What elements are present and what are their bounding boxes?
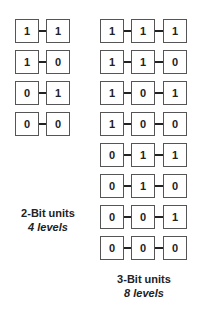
bit-box: 1 [100,81,124,105]
connector [155,92,163,94]
bit-box: 1 [163,81,187,105]
bit-box: 1 [46,19,70,43]
connector [124,185,131,187]
bit-box: 1 [46,81,70,105]
bit-box: 1 [15,19,39,43]
connector [155,123,163,125]
connector [155,154,163,156]
connector [155,185,163,187]
two-bit-caption: 2-Bit units 4 levels [8,206,88,234]
bit-box: 0 [163,112,187,136]
bit-box: 0 [100,205,124,229]
three-bit-caption: 3-Bit units 8 levels [100,272,188,300]
bit-box: 0 [15,81,39,105]
connector [155,216,163,218]
connector [155,30,163,32]
bit-box: 0 [131,81,155,105]
two-bit-levels: 4 levels [28,221,68,233]
bit-box: 0 [100,174,124,198]
connector [124,154,131,156]
connector [124,30,131,32]
connector [39,123,46,125]
bit-box: 1 [131,50,155,74]
three-bit-levels: 8 levels [124,287,164,299]
connector [124,61,131,63]
bit-box: 0 [131,236,155,260]
bit-box: 0 [100,236,124,260]
connector [124,123,131,125]
connector [39,61,46,63]
bit-box: 1 [131,174,155,198]
bit-box: 1 [131,143,155,167]
connector [155,247,163,249]
bit-box: 0 [15,112,39,136]
bit-box: 0 [163,50,187,74]
connector [124,247,131,249]
bit-box: 1 [131,19,155,43]
bit-box: 0 [131,112,155,136]
bit-box: 1 [163,205,187,229]
bit-box: 1 [100,112,124,136]
connector [124,92,131,94]
bit-box: 0 [163,236,187,260]
bit-box: 1 [163,19,187,43]
three-bit-title: 3-Bit units [100,272,188,286]
bit-box: 0 [163,174,187,198]
bit-box: 1 [100,19,124,43]
connector [39,30,46,32]
connector [39,92,46,94]
bit-box: 1 [15,50,39,74]
connector [155,61,163,63]
bit-box: 0 [100,143,124,167]
bit-box: 1 [163,143,187,167]
bit-box: 0 [131,205,155,229]
connector [124,216,131,218]
bit-box: 0 [46,112,70,136]
two-bit-title: 2-Bit units [8,206,88,220]
bit-box: 1 [100,50,124,74]
bit-box: 0 [46,50,70,74]
